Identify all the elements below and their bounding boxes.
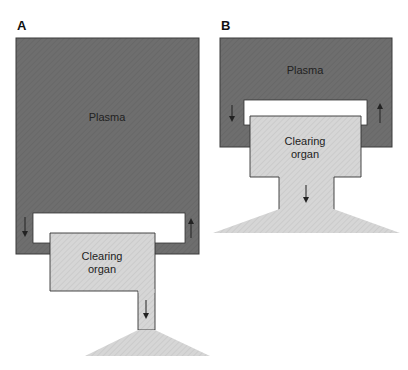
clearing-organ-a <box>50 233 155 330</box>
panel-a: A Plasma Clearing organ <box>16 18 210 356</box>
organ-label-a-line2: organ <box>88 263 116 275</box>
organ-label-b-line2: organ <box>291 148 319 160</box>
panel-b: B Plasma Clearing organ <box>213 18 400 233</box>
excretion-fan-b <box>213 209 400 233</box>
clearance-diagram: A Plasma Clearing organ B Plasma Clearin… <box>0 0 408 370</box>
plasma-label-a: Plasma <box>89 111 127 123</box>
organ-label-a-line1: Clearing <box>82 250 123 262</box>
organ-a-duct-join <box>139 289 155 293</box>
panel-b-label: B <box>221 18 230 33</box>
panel-a-label: A <box>17 18 27 33</box>
plasma-label-b: Plasma <box>287 64 325 76</box>
excretion-fan-a <box>85 330 210 356</box>
organ-label-b-line1: Clearing <box>285 135 326 147</box>
